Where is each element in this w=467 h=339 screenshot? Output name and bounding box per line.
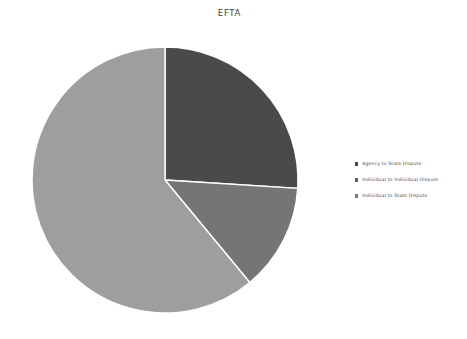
legend-swatch-icon bbox=[355, 162, 358, 165]
pie-chart-figure: EFTA Agency to State DisputeIndividual t… bbox=[0, 0, 467, 339]
legend-swatch-icon bbox=[355, 194, 358, 197]
pie-plot-area bbox=[0, 0, 340, 339]
pie-svg bbox=[0, 0, 340, 339]
legend-item[interactable]: Agency to State Dispute bbox=[355, 156, 463, 172]
legend-item-label: Agency to State Dispute bbox=[362, 162, 421, 167]
pie-wedge[interactable] bbox=[165, 47, 298, 188]
legend-item-label: Individual to State Dispute bbox=[362, 194, 427, 199]
legend-item[interactable]: Individual to Individual Dispute bbox=[355, 172, 463, 188]
legend-item[interactable]: Individual to State Dispute bbox=[355, 188, 463, 204]
pie-wedge-group bbox=[32, 47, 298, 313]
chart-legend: Agency to State DisputeIndividual to Ind… bbox=[355, 156, 463, 204]
legend-item-label: Individual to Individual Dispute bbox=[362, 178, 438, 183]
legend-swatch-icon bbox=[355, 178, 358, 181]
